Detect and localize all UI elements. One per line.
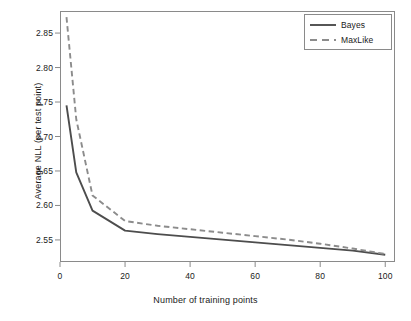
legend-label-maxlike: MaxLike — [341, 35, 373, 45]
x-tick-label: 20 — [110, 271, 140, 281]
chart-legend: Bayes MaxLike — [304, 14, 392, 50]
x-tick-label: 80 — [305, 271, 335, 281]
dashed-line-key — [310, 35, 336, 45]
legend-item-bayes: Bayes — [310, 18, 365, 32]
x-tick-label: 100 — [370, 271, 400, 281]
x-tick-label: 60 — [240, 271, 270, 281]
legend-item-maxlike: MaxLike — [310, 33, 373, 47]
series-lines — [67, 17, 386, 255]
x-tick-label: 40 — [175, 271, 205, 281]
series-line-bayes — [67, 105, 386, 254]
series-line-maxlike — [67, 17, 386, 254]
x-axis-title: Number of training points — [0, 295, 411, 305]
y-axis-title: Average NLL (per test point) — [33, 31, 43, 251]
legend-label-bayes: Bayes — [341, 20, 365, 30]
solid-line-key — [310, 20, 336, 30]
x-tick-label: 0 — [45, 271, 75, 281]
chart-figure: 2.552.602.652.702.752.802.85 02040608010… — [0, 0, 411, 321]
